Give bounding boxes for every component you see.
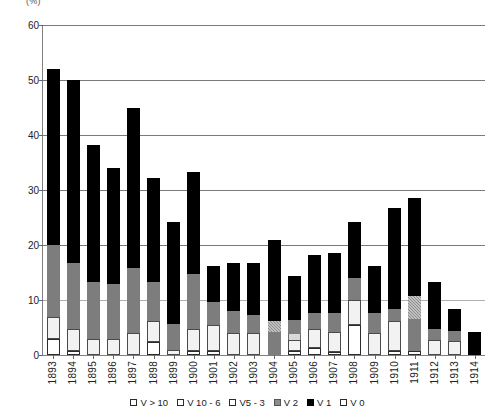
x-axis-tick-mark xyxy=(395,355,396,359)
y-axis-tick-label: 10 xyxy=(28,295,39,306)
bar-segment-v1 xyxy=(428,282,441,329)
bar-segment-v53 xyxy=(227,311,240,333)
bar-segment-vgt10 xyxy=(127,333,140,355)
bar-segment-v53 xyxy=(368,313,381,333)
bar-segment-v53 xyxy=(207,302,220,325)
bar-1909[interactable] xyxy=(368,266,381,355)
x-axis-tick-mark xyxy=(455,355,456,359)
bar-segment-v53 xyxy=(388,309,401,321)
bar-1905[interactable] xyxy=(288,276,301,355)
units-label: (%) xyxy=(26,0,41,6)
bar-1912[interactable] xyxy=(428,282,441,355)
bar-segment-v1 xyxy=(67,80,80,263)
bar-1902[interactable] xyxy=(227,263,240,355)
bar-segment-vgt10 xyxy=(247,333,260,355)
x-axis-tick-label: 1907 xyxy=(328,361,339,384)
x-axis-tick-mark xyxy=(375,355,376,359)
y-axis-tick-label: 30 xyxy=(28,185,39,196)
bar-segment-v1 xyxy=(388,208,401,309)
bar-segment-v1 xyxy=(167,222,180,324)
bar-segment-v1 xyxy=(107,168,120,284)
x-axis-tick-mark xyxy=(214,355,215,359)
bar-segment-vgt10 xyxy=(388,321,401,351)
bar-1914[interactable] xyxy=(468,332,481,355)
bar-segment-v1 xyxy=(227,263,240,311)
legend-item-v106[interactable]: V 10 - 6 xyxy=(177,397,220,408)
bar-segment-v1 xyxy=(247,263,260,315)
gridline xyxy=(43,80,485,81)
bar-1907[interactable] xyxy=(328,253,341,355)
bar-segment-v0 xyxy=(47,339,60,356)
y-axis-tick-mark xyxy=(39,245,43,246)
x-axis-tick-mark xyxy=(93,355,94,359)
x-axis-tick-label: 1906 xyxy=(308,361,319,384)
legend-item-v1[interactable]: V 1 xyxy=(307,397,331,408)
bar-1911[interactable] xyxy=(408,198,421,355)
legend-label: V 0 xyxy=(350,397,364,408)
x-axis-tick-mark xyxy=(415,355,416,359)
bar-segment-v1 xyxy=(187,172,200,274)
bar-1894[interactable] xyxy=(67,80,80,355)
bar-1901[interactable] xyxy=(207,266,220,355)
bar-segment-v1 xyxy=(268,240,281,321)
x-axis-tick-label: 1894 xyxy=(67,361,78,384)
bar-segment-v2 xyxy=(408,296,421,319)
bar-1898[interactable] xyxy=(147,178,160,355)
y-axis-tick-label: 50 xyxy=(28,75,39,86)
bar-segment-v1 xyxy=(207,266,220,302)
bar-segment-vgt10 xyxy=(147,321,160,342)
x-axis-tick-label: 1898 xyxy=(148,361,159,384)
bar-segment-vgt10 xyxy=(187,329,200,351)
bar-1904[interactable] xyxy=(268,240,281,355)
x-axis-tick-label: 1910 xyxy=(389,361,400,384)
bar-1895[interactable] xyxy=(87,145,100,355)
x-axis-tick-mark xyxy=(133,355,134,359)
bar-segment-v53 xyxy=(67,263,80,329)
y-axis-tick-label: 40 xyxy=(28,130,39,141)
bar-1896[interactable] xyxy=(107,168,120,355)
legend-item-v0[interactable]: V 0 xyxy=(340,397,364,408)
gridline xyxy=(43,135,485,136)
bar-1906[interactable] xyxy=(308,255,321,355)
y-axis-tick-mark xyxy=(39,300,43,301)
bar-segment-v53 xyxy=(268,332,281,355)
bar-1893[interactable] xyxy=(47,69,60,355)
legend-label: V 2 xyxy=(284,397,298,408)
bar-1913[interactable] xyxy=(448,309,461,355)
legend-swatch-icon xyxy=(340,399,347,406)
bar-segment-v53 xyxy=(408,319,421,351)
legend-swatch-icon xyxy=(307,399,314,406)
x-axis-tick-mark xyxy=(234,355,235,359)
x-axis-tick-mark xyxy=(354,355,355,359)
bar-1903[interactable] xyxy=(247,263,260,355)
x-axis-tick-label: 1900 xyxy=(188,361,199,384)
stacked-bar-chart: (%) 0102030405060 V > 10V 10 - 6V5 - 3V … xyxy=(0,0,495,413)
x-axis-tick-label: 1895 xyxy=(87,361,98,384)
x-axis-tick-label: 1899 xyxy=(168,361,179,384)
legend-item-v53[interactable]: V5 - 3 xyxy=(229,397,264,408)
x-axis-tick-label: 1897 xyxy=(127,361,138,384)
bar-segment-v1 xyxy=(87,145,100,283)
legend-item-v2[interactable]: V 2 xyxy=(274,397,298,408)
bar-segment-v53 xyxy=(47,245,60,317)
legend-label: V 10 - 6 xyxy=(187,397,220,408)
bar-segment-v1 xyxy=(308,255,321,313)
y-axis-tick-mark xyxy=(39,355,43,356)
bar-segment-v0 xyxy=(308,348,321,355)
x-axis-tick-mark xyxy=(73,355,74,359)
bar-segment-vgt10 xyxy=(368,333,381,355)
bar-segment-v53 xyxy=(147,282,160,322)
plot-area: 0102030405060 xyxy=(42,25,485,356)
bar-1897[interactable] xyxy=(127,108,140,355)
chart-legend: V > 10V 10 - 6V5 - 3V 2V 1V 0 xyxy=(0,397,495,408)
x-axis-tick-mark xyxy=(254,355,255,359)
bar-1910[interactable] xyxy=(388,208,401,355)
bar-1900[interactable] xyxy=(187,172,200,355)
legend-item-vgt10[interactable]: V > 10 xyxy=(130,397,168,408)
bar-segment-v1 xyxy=(348,222,361,278)
bar-segment-vgt10 xyxy=(67,329,80,351)
bar-segment-v53 xyxy=(288,320,301,334)
bar-1899[interactable] xyxy=(167,222,180,355)
bar-1908[interactable] xyxy=(348,222,361,355)
x-axis-tick-label: 1902 xyxy=(228,361,239,384)
